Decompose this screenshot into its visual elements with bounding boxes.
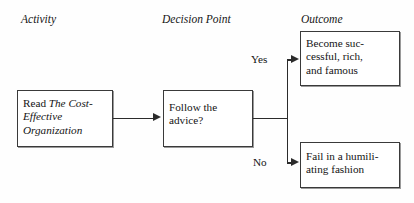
node-outcome-failure-text: Fail in a humili- ating fashion — [306, 150, 396, 177]
edge-label-yes: Yes — [251, 53, 267, 66]
node-outcome-success: Become suc- cessful, rich, and famous — [300, 31, 400, 86]
node-decision-line-2: advice? — [169, 114, 249, 127]
node-read-book: Read The Cost-Effective Organization — [17, 90, 113, 147]
connector-read-to-decision — [113, 118, 155, 120]
edge-label-no: No — [253, 156, 267, 169]
node-outcome-failure-line-1: Fail in a humili- — [306, 150, 396, 163]
arrowhead-to-fail — [291, 158, 299, 166]
node-outcome-failure-line-2: ating fashion — [306, 163, 396, 176]
connector-decision-stub — [253, 118, 288, 120]
node-read-book-text: Read The Cost-Effective Organization — [23, 97, 109, 137]
flowchart-canvas: Activity Decision Point Outcome Read The… — [0, 0, 414, 203]
node-outcome-success-text: Become suc- cessful, rich, and famous — [306, 37, 396, 77]
arrowhead-to-decision — [153, 113, 161, 121]
column-header-decision-point: Decision Point — [162, 13, 231, 26]
column-header-activity: Activity — [21, 13, 56, 26]
connector-trunk-lower — [287, 118, 289, 163]
node-read-book-lead: Read — [23, 97, 49, 109]
node-outcome-success-line-3: and famous — [306, 64, 396, 77]
connector-trunk-upper — [287, 60, 289, 118]
arrowhead-to-success — [291, 55, 299, 63]
node-outcome-failure: Fail in a humili- ating fashion — [300, 142, 400, 188]
node-outcome-success-line-2: cessful, rich, — [306, 50, 396, 63]
node-decision-text: Follow the advice? — [169, 101, 249, 128]
node-outcome-success-line-1: Become suc- — [306, 37, 396, 50]
node-decision-follow-advice: Follow the advice? — [163, 90, 253, 147]
column-header-outcome: Outcome — [301, 13, 343, 26]
node-decision-line-1: Follow the — [169, 101, 249, 114]
